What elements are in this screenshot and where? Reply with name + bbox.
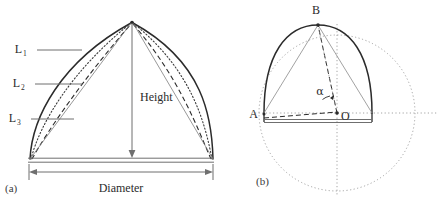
panel-b-group: B A O α (b) — [249, 3, 437, 196]
chord-a-to-o-dashed — [264, 112, 337, 118]
panel-tag-b: (b) — [256, 175, 269, 188]
chord-left — [30, 23, 131, 159]
diameter-label: Diameter — [99, 181, 144, 195]
height-arrow-head — [129, 150, 136, 158]
apex-point-b — [316, 23, 320, 27]
label-l2-subscript: 2 — [21, 83, 25, 92]
panel-tag-a: (a) — [5, 182, 18, 195]
label-l3: L 3 — [9, 111, 21, 127]
center-point-o — [335, 111, 339, 115]
label-l3-subscript: 3 — [17, 118, 21, 127]
label-l1: L 1 — [15, 42, 27, 58]
point-a-marker — [263, 113, 266, 116]
diameter-arrow-head-left — [29, 169, 37, 175]
chord-b-to-right — [318, 25, 372, 113]
angle-alpha-pointer — [330, 95, 334, 100]
chord-a-to-b — [264, 25, 318, 113]
curve-l3-left — [32, 24, 131, 159]
label-l3-base: L — [9, 111, 16, 125]
label-l1-base: L — [15, 42, 22, 56]
point-label-o: O — [341, 109, 350, 123]
panel-a-group: L 1 L 2 L 3 Height Diameter (a) — [5, 21, 214, 195]
point-label-a: A — [249, 107, 258, 121]
diameter-arrow-head-right — [205, 169, 213, 175]
figure-svg: L 1 L 2 L 3 Height Diameter (a) — [0, 0, 441, 201]
label-l1-subscript: 1 — [23, 49, 27, 58]
dome-arc — [264, 25, 372, 113]
label-l2-base: L — [13, 76, 20, 90]
label-l2: L 2 — [13, 76, 25, 92]
angle-label-alpha: α — [316, 85, 324, 98]
height-label: Height — [140, 90, 173, 104]
figure-container: L 1 L 2 L 3 Height Diameter (a) — [0, 0, 441, 201]
point-label-b: B — [312, 3, 320, 17]
